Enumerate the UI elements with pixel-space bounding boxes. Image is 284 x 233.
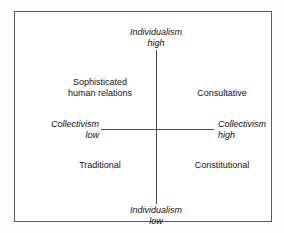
- axis-label-collectivism-low-line2: low: [23, 130, 99, 141]
- axis-label-collectivism-high-line2: high: [218, 130, 284, 141]
- axis-label-individualism-high-line1: Individualism: [106, 27, 206, 38]
- quadrant-label-bottom-left: Traditional: [52, 160, 148, 171]
- axis-label-individualism-high-line2: high: [106, 38, 206, 49]
- axis-label-collectivism-low: Collectivism low: [23, 119, 99, 141]
- matrix-diagram: Individualism high Individualism low Col…: [0, 0, 284, 233]
- quadrant-label-top-left-line2: human relations: [52, 88, 148, 99]
- quadrant-label-top-left-line1: Sophisticated: [52, 77, 148, 88]
- quadrant-label-bottom-left-line1: Traditional: [52, 160, 148, 171]
- diagram-frame: Individualism high Individualism low Col…: [14, 11, 272, 222]
- quadrant-label-top-right: Consultative: [167, 88, 277, 99]
- axis-label-individualism-low-line2: low: [106, 216, 206, 227]
- vertical-axis-line: [156, 50, 157, 204]
- quadrant-label-top-right-line1: Consultative: [167, 88, 277, 99]
- axis-label-collectivism-high-line1: Collectivism: [218, 119, 284, 130]
- axis-label-collectivism-low-line1: Collectivism: [23, 119, 99, 130]
- axis-label-collectivism-high: Collectivism high: [218, 119, 284, 141]
- quadrant-label-bottom-right: Constitutional: [167, 160, 277, 171]
- quadrant-label-top-left: Sophisticated human relations: [52, 77, 148, 99]
- horizontal-axis-line: [101, 129, 214, 130]
- axis-label-individualism-low-line1: Individualism: [106, 205, 206, 216]
- axis-label-individualism-low: Individualism low: [106, 205, 206, 227]
- quadrant-label-bottom-right-line1: Constitutional: [167, 160, 277, 171]
- axis-label-individualism-high: Individualism high: [106, 27, 206, 49]
